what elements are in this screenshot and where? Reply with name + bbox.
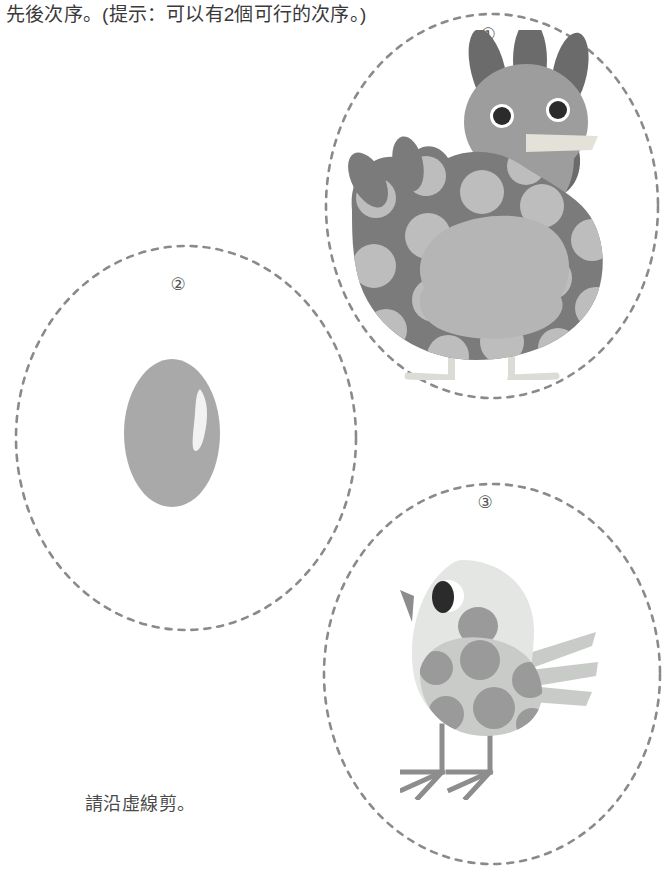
worksheet-page: 先後次序。(提示：可以有2個可行的次序。) ① [0,0,666,875]
hen-illustration [330,30,630,384]
chick-beak [400,590,414,622]
hen-eye-right [549,101,567,119]
chick-legs [400,726,490,798]
egg-illustration [112,355,232,519]
hen-eye-left [493,107,511,125]
card-number-2: ② [156,276,200,293]
top-instruction-text: 先後次序。(提示：可以有2個可行的次序。) [6,2,366,28]
bottom-instruction-text: 請沿虛線剪。 [85,791,195,817]
card-number-3: ③ [463,494,507,511]
egg-shell [124,359,220,507]
chick-eye [432,581,454,613]
chick-illustration [400,550,600,804]
hen-beak [526,134,598,152]
